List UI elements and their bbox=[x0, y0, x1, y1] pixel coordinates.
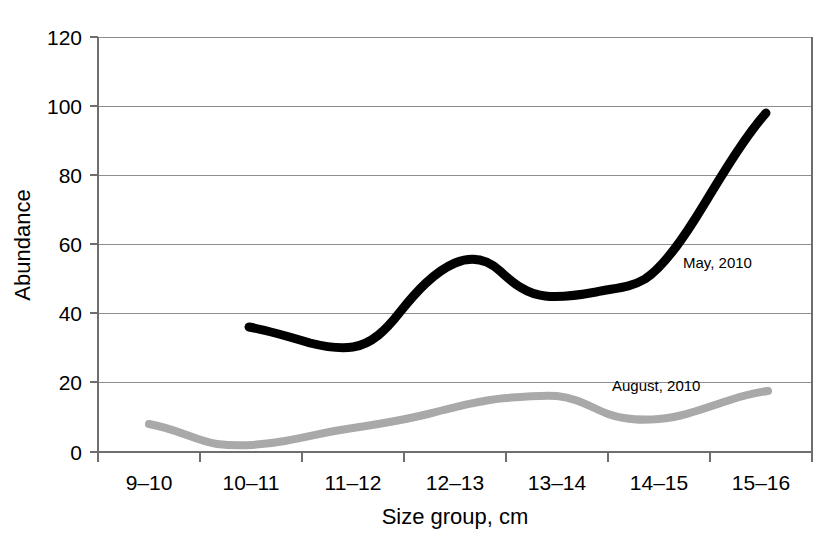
y-tick-label-120: 120 bbox=[47, 26, 82, 49]
y-tick-label-80: 80 bbox=[59, 164, 82, 187]
x-tick-label-13-14: 13–14 bbox=[528, 471, 587, 494]
series-annotation-august-2010: August, 2010 bbox=[612, 377, 700, 394]
series-annotation-may-2010: May, 2010 bbox=[683, 254, 752, 271]
x-tick-label-12-13: 12–13 bbox=[426, 471, 484, 494]
y-tick-label-20: 20 bbox=[59, 371, 82, 394]
y-axis-title: Abundance bbox=[10, 189, 35, 300]
y-tick-label-100: 100 bbox=[47, 95, 82, 118]
y-tick-label-60: 60 bbox=[59, 233, 82, 256]
abundance-line-chart: 120 100 80 60 40 20 0 9–10 10–11 11–12 1… bbox=[0, 0, 838, 544]
x-tick-label-10-11: 10–11 bbox=[223, 471, 280, 494]
x-tick-label-11-12: 11–12 bbox=[325, 471, 382, 494]
x-tick-label-15-16: 15–16 bbox=[732, 471, 790, 494]
x-tick-label-14-15: 14–15 bbox=[630, 471, 688, 494]
chart-canvas: 120 100 80 60 40 20 0 9–10 10–11 11–12 1… bbox=[0, 0, 838, 544]
y-tick-label-0: 0 bbox=[70, 441, 82, 464]
chart-background bbox=[0, 0, 838, 544]
x-axis-title: Size group, cm bbox=[382, 504, 529, 529]
y-tick-label-40: 40 bbox=[59, 302, 82, 325]
x-tick-label-9-10: 9–10 bbox=[126, 471, 173, 494]
